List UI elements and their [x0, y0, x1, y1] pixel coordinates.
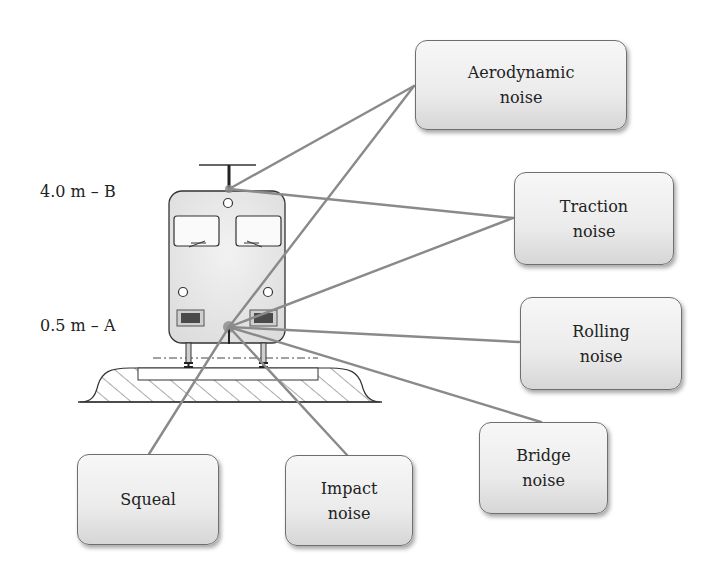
left-marker-lamp [179, 288, 188, 297]
right-window [236, 216, 281, 246]
track-bed [78, 358, 382, 402]
train-front [169, 165, 285, 367]
aerodynamic-noise-label: Aerodynamic noise [468, 60, 575, 110]
aerodynamic-noise-box: Aerodynamic noise [415, 40, 627, 130]
traction-noise-box: Traction noise [514, 172, 674, 265]
traction-noise-label: Traction noise [560, 194, 628, 244]
squeal-box: Squeal [77, 454, 219, 545]
left-window [174, 216, 219, 246]
right-bogie-leg [261, 343, 266, 363]
left-headlight-lens [181, 313, 200, 323]
top-lamp [224, 199, 233, 208]
left-bogie-leg [186, 343, 191, 363]
connector-b-to-aerodynamic [229, 86, 414, 189]
height-label-a: 0.5 m – A [40, 316, 115, 335]
impact-noise-label: Impact noise [321, 476, 378, 526]
rolling-noise-box: Rolling noise [520, 297, 682, 390]
squeal-label: Squeal [120, 487, 176, 512]
right-marker-lamp [264, 288, 273, 297]
impact-noise-box: Impact noise [285, 455, 413, 546]
bridge-noise-label: Bridge noise [516, 443, 570, 493]
height-label-b: 4.0 m – B [40, 182, 116, 201]
left-wheel-rail [184, 363, 193, 367]
rolling-noise-label: Rolling noise [572, 319, 630, 369]
bridge-noise-box: Bridge noise [479, 422, 608, 514]
sleeper [138, 368, 318, 380]
